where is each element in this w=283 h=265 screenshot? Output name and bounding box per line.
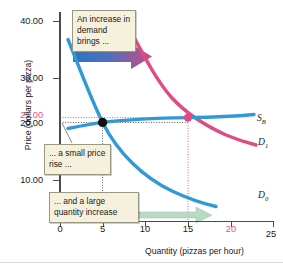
figure-baseline-rule [0, 262, 283, 263]
demand0-curve-label-sub: 0 [265, 195, 268, 202]
demand0-curve-label: D0 [258, 189, 268, 202]
demand-curve-d1 [129, 28, 256, 145]
leader-price-note [62, 123, 72, 143]
supply-curve-label-sub: B [262, 118, 266, 125]
y-axis-line [59, 12, 61, 221]
supply-demand-chart: 40.00 30.00 21.00 20.00 10.00 0 5 10 15 … [0, 0, 283, 265]
demand1-curve-label-sub: 1 [265, 142, 268, 149]
annotation-demand-shift: An increase in demand brings ... [72, 10, 136, 52]
x-axis-title: Quantity (pizzas per hour) [145, 246, 244, 256]
y-tick-30 [53, 78, 59, 79]
supply-curve-label: SB [257, 112, 266, 125]
x-tick-label-25: 25 [256, 229, 283, 239]
x-tick-label-15: 15 [173, 224, 203, 234]
y-axis-title: Price (dollars per pizza) [23, 20, 33, 190]
new-equilibrium-dot [184, 113, 192, 121]
supply-curve-sb [68, 115, 254, 129]
demand0-curve-label-letter: D [258, 189, 265, 200]
x-tick-label-20: 20 [216, 224, 246, 234]
y-tick-10 [53, 180, 59, 181]
y-tick-40 [53, 21, 59, 22]
annotation-quantity-increase: ... and a large quantity increase [49, 192, 139, 223]
x-tick-25 [273, 221, 274, 227]
initial-equilibrium-dot [98, 118, 107, 127]
x-tick-label-10: 10 [130, 224, 160, 234]
x-tick-label-5: 5 [88, 224, 118, 234]
demand1-curve-label: D1 [258, 136, 268, 149]
demand1-curve-label-letter: D [258, 136, 265, 147]
annotation-price-rise: ... a small price rise ... [44, 144, 111, 175]
x-tick-label-0: 0 [45, 224, 75, 234]
